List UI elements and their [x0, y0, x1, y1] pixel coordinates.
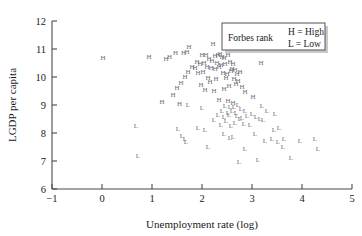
legend-title: Forbes rank [228, 33, 273, 43]
data-point-l: L [270, 135, 274, 143]
x-tick-label: 2 [199, 193, 204, 204]
data-point-l: L [242, 120, 246, 128]
data-point-l: L [200, 104, 204, 112]
y-tick-label: 12 [36, 16, 47, 27]
y-tick-label: 6 [41, 184, 46, 195]
data-point-l: L [265, 107, 269, 115]
data-point-h: H [250, 93, 255, 101]
data-point-l: L [277, 124, 281, 132]
data-point-l: L [298, 137, 302, 145]
data-point-h: H [258, 59, 263, 67]
data-point-l: L [222, 130, 226, 138]
data-point-l: L [212, 116, 216, 124]
data-point-l: L [203, 126, 207, 134]
y-tick-label: 8 [41, 128, 46, 139]
x-tick-label: 3 [249, 193, 254, 204]
data-point-h: H [177, 100, 182, 108]
x-tick-label: 1 [149, 193, 154, 204]
legend-entry-high: H = High [288, 27, 324, 37]
data-point-l: L [237, 158, 241, 166]
data-point-l: L [261, 116, 265, 124]
y-axis-ticks: 6789101112 [36, 16, 58, 195]
data-point-l: L [272, 126, 276, 134]
y-tick-label: 9 [41, 100, 46, 111]
data-point-h: H [100, 54, 105, 62]
data-point-l: L [206, 143, 210, 151]
data-point-h: H [173, 49, 178, 57]
data-point-h: H [146, 53, 151, 61]
data-point-l: L [256, 156, 260, 164]
data-point-l: L [245, 112, 249, 120]
data-point-l: L [263, 137, 267, 145]
data-point-h: H [233, 80, 238, 88]
data-point-h: H [213, 75, 218, 83]
scatter-plot-figure: −1012345 6789101112 HHHHHHHHHHHHHHHHHHHH… [0, 0, 362, 236]
data-point-l: L [134, 122, 138, 130]
y-tick-label: 10 [36, 72, 47, 83]
y-tick-label: 11 [36, 44, 46, 55]
data-point-h: H [210, 40, 215, 48]
data-point-l: L [219, 121, 223, 129]
data-point-l: L [276, 138, 280, 146]
data-point-l: L [281, 143, 285, 151]
data-point-h: H [228, 67, 233, 75]
data-point-l: L [253, 130, 257, 138]
data-point-l: L [228, 134, 232, 142]
data-point-l: L [248, 121, 252, 129]
data-point-h: H [211, 87, 216, 95]
data-point-h: H [226, 82, 231, 90]
data-point-l: L [273, 110, 277, 118]
data-point-l: L [184, 138, 188, 146]
data-point-h: H [170, 91, 175, 99]
data-point-h: H [242, 88, 247, 96]
data-point-h: H [221, 85, 226, 93]
data-point-l: L [260, 102, 264, 110]
data-point-h: H [216, 96, 221, 104]
chart-svg: −1012345 6789101112 HHHHHHHHHHHHHHHHHHHH… [0, 0, 362, 236]
legend: Forbes rank H = High L = Low [222, 23, 328, 53]
data-point-l: L [136, 152, 140, 160]
data-point-h: H [163, 55, 168, 63]
data-point-h: H [159, 98, 164, 106]
data-point-l: L [289, 154, 293, 162]
x-axis-title: Unemployment rate (log) [146, 218, 258, 231]
data-point-l: L [313, 135, 317, 143]
x-tick-label: 5 [349, 193, 354, 204]
data-point-l: L [224, 117, 228, 125]
y-tick-label: 7 [41, 156, 46, 167]
data-point-h: H [223, 74, 228, 82]
data-point-h: H [202, 86, 207, 94]
data-points-layer: HHHHHHHHHHHHHHHHHHHHHHHHHHHHHHHHHHHHHHHH… [100, 40, 320, 167]
data-point-l: L [233, 119, 237, 127]
x-tick-label: 4 [299, 193, 305, 204]
y-axis-title: LGDP per capita [6, 68, 18, 142]
data-point-l: L [186, 101, 190, 109]
data-point-l: L [282, 135, 286, 143]
data-point-l: L [196, 124, 200, 132]
data-point-h: H [237, 68, 242, 76]
x-axis-ticks: −1012345 [46, 184, 354, 204]
data-point-l: L [229, 122, 233, 130]
data-point-l: L [316, 145, 320, 153]
data-point-h: H [186, 43, 191, 51]
data-point-l: L [243, 145, 247, 153]
data-point-h: H [207, 78, 212, 86]
x-tick-label: 0 [99, 193, 104, 204]
data-point-l: L [216, 111, 220, 119]
legend-entry-low: L = Low [288, 39, 321, 49]
x-tick-label: −1 [46, 193, 57, 204]
